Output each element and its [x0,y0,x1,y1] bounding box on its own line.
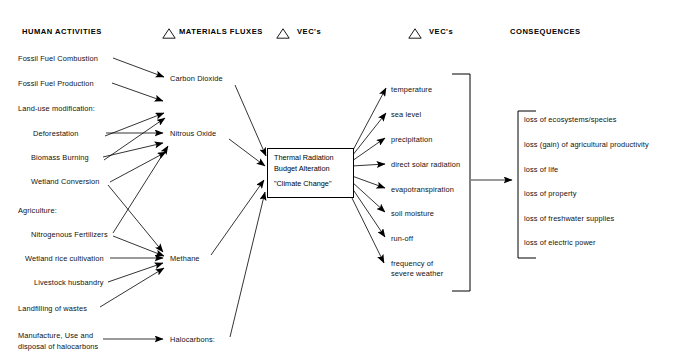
link-ffp-co2 [112,83,163,101]
vec-frequency-line-2: severe weather [391,269,443,278]
activity-agriculture: Agriculture: [18,206,57,215]
header-consequences: CONSEQUENCES [510,27,581,36]
header-vec-2: VEC's [429,27,453,36]
link-n2o-center [229,139,265,166]
link-wetlandconv-ch4 [108,185,163,252]
activity-manufacture-line2: disposal of halocarbons [18,342,98,351]
vec-temperature: temperature [391,85,432,94]
link-center-solar [352,164,385,166]
flux-halocarbons: Halocarbons: [170,335,215,344]
activity-wetland-rice-cultivation: Wetland rice cultivation [25,254,104,263]
link-ffc-co2 [113,58,164,77]
consequence-property: loss of property [524,189,576,198]
header-materials-fluxes: MATERIALS FLUXES [179,27,263,36]
link-ch4-center [211,180,264,255]
consequence-agricultural: loss (gain) of agricultural productivity [524,140,649,149]
link-co2-center [235,85,266,156]
link-center-runoff [352,188,385,237]
activity-biomass-burning: Biomass Burning [31,153,89,162]
flux-nitrous-oxide: Nitrous Oxide [170,129,216,138]
header-vec-1: VEC's [297,27,321,36]
link-wetlandconv-n2o [110,152,166,182]
climate-change-box: Thermal Radiation Budget Alteration "Cli… [267,148,354,198]
flux-carbon-dioxide: Carbon Dioxide [170,74,223,83]
vec-soil-moisture: soil moisture [391,209,434,218]
center-box-line-1: Thermal Radiation [274,153,334,164]
flux-methane: Methane [170,254,200,263]
activity-deforestation: Deforestation [33,129,79,138]
vec-direct-solar-radiation: direct solar radiation [391,160,460,169]
vec-evapotranspiration: evapotranspiration [391,185,454,194]
vec-bracket [452,74,470,291]
activity-wetland-conversion: Wetland Conversion [31,177,100,186]
center-box-line-2: Budget Alteration [274,164,330,175]
activity-livestock-husbandry: Livestock husbandry [34,278,104,287]
link-livestock-ch4 [108,263,163,282]
triangle-icon-vec-1 [276,28,290,39]
activity-nitrogenous-fertilizers: Nitrogenous Fertilizers [31,230,108,239]
center-box-line-3: "Climate Change" [274,179,332,190]
activity-fossil-fuel-production: Fossil Fuel Production [18,79,94,88]
activity-manufacture-line1: Manufacture, Use and [18,331,93,340]
consequence-life: loss of life [524,165,558,174]
vec-frequency-line-1: frequency of [391,259,433,268]
vec-sea-level: sea level [391,110,421,119]
link-halocarbons-center [230,192,265,337]
link-fertilizers-ch4 [113,236,164,256]
vec-run-off: run-off [391,234,413,243]
activity-landfilling-of-wastes: Landfilling of wastes [18,304,87,313]
link-fertilizers-n2o [113,146,168,233]
triangle-icon-vec-2 [408,28,422,39]
consequences-bracket [518,111,536,258]
diagram-canvas: HUMAN ACTIVITIES MATERIALS FLUXES VEC's … [0,0,681,362]
vec-precipitation: precipitation [391,135,432,144]
consequence-electric: loss of electric power [524,238,596,247]
triangle-icon-materials [162,28,176,39]
activity-fossil-fuel-combustion: Fossil Fuel Combustion [18,54,98,63]
consequence-ecosystems: loss of ecosystems/species [524,115,617,124]
consequence-freshwater: loss of freshwater supplies [524,214,614,223]
activity-land-use-modification: Land-use modification: [18,104,95,113]
header-human-activities: HUMAN ACTIVITIES [22,27,102,36]
